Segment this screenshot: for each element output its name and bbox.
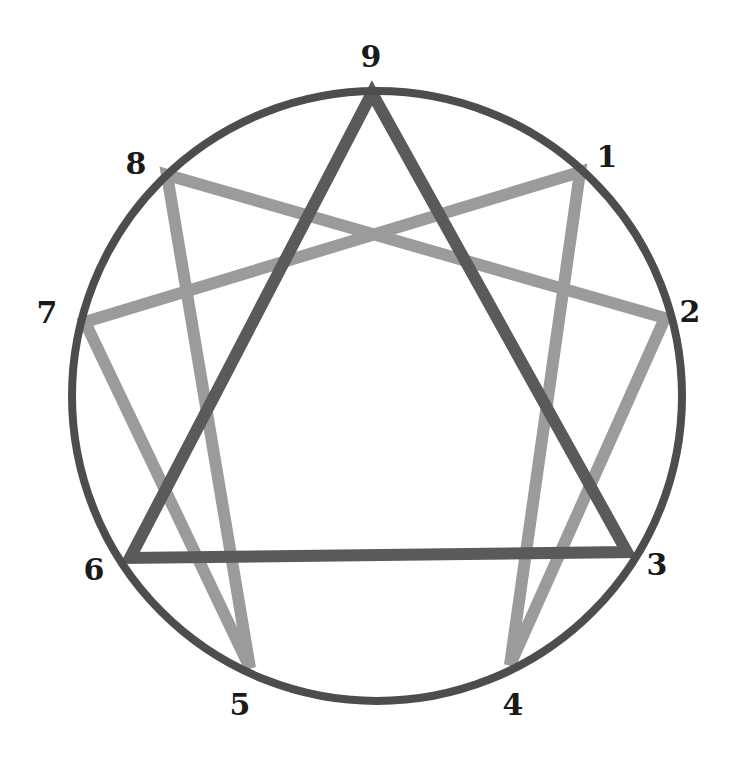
point-label-7: 7 bbox=[37, 298, 58, 328]
hexad-figure bbox=[85, 172, 665, 668]
point-label-8: 8 bbox=[126, 149, 147, 179]
point-label-4: 4 bbox=[503, 690, 524, 720]
point-label-2: 2 bbox=[680, 297, 701, 327]
point-label-5: 5 bbox=[230, 690, 251, 720]
enneagram-diagram bbox=[0, 0, 743, 759]
point-label-3: 3 bbox=[647, 550, 668, 580]
outer-circle bbox=[72, 91, 682, 701]
point-label-1: 1 bbox=[597, 142, 618, 172]
point-label-9: 9 bbox=[361, 42, 382, 72]
point-label-6: 6 bbox=[84, 555, 105, 585]
